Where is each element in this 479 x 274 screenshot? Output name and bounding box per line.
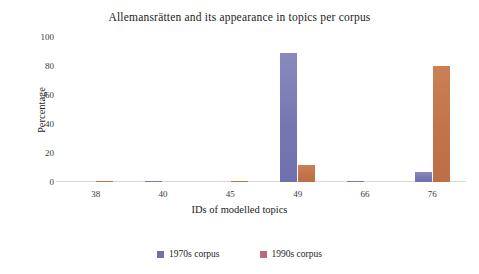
bar-1990s-49 xyxy=(298,165,315,182)
bar-group-66: 66 xyxy=(331,37,398,182)
bar-group-38: 38 xyxy=(62,37,129,182)
bar-1990s-76 xyxy=(433,66,450,182)
x-tick-66: 66 xyxy=(360,189,369,199)
bar-group-45: 45 xyxy=(197,37,264,182)
bar-groups: 38 40 45 49 66 xyxy=(62,37,466,182)
bar-chart: Allemansrätten and its appearance in top… xyxy=(0,0,479,274)
y-tick-0: 0 xyxy=(50,177,55,187)
legend-label-1970s: 1970s corpus xyxy=(169,249,219,259)
bar-1970s-49 xyxy=(280,53,297,182)
legend-label-1990s: 1990s corpus xyxy=(272,249,322,259)
bar-group-49: 49 xyxy=(264,37,331,182)
y-tick-60: 60 xyxy=(45,90,54,100)
legend-swatch-icon-1970s xyxy=(157,251,164,258)
x-tick-45: 45 xyxy=(226,189,235,199)
chart-title: Allemansrätten and its appearance in top… xyxy=(0,11,479,23)
legend-item-1990s: 1990s corpus xyxy=(260,249,322,259)
legend-item-1970s: 1970s corpus xyxy=(157,249,219,259)
legend-swatch-icon-1990s xyxy=(260,251,267,258)
bar-group-76: 76 xyxy=(399,37,466,182)
bar-1970s-66 xyxy=(347,181,364,182)
x-tick-49: 49 xyxy=(293,189,302,199)
bar-1990s-45 xyxy=(231,181,248,182)
legend: 1970s corpus 1990s corpus xyxy=(0,249,479,259)
x-tick-38: 38 xyxy=(91,189,100,199)
x-axis-title: IDs of modelled topics xyxy=(0,204,479,215)
plot-area: Percentage 0 20 40 60 80 100 38 40 45 xyxy=(62,37,466,182)
x-tick-76: 76 xyxy=(428,189,437,199)
bar-group-40: 40 xyxy=(129,37,196,182)
x-tick-40: 40 xyxy=(158,189,167,199)
bar-1970s-76 xyxy=(415,172,432,182)
y-tick-100: 100 xyxy=(41,32,55,42)
bar-1970s-40 xyxy=(145,181,162,182)
bar-1990s-38 xyxy=(96,181,113,182)
y-tick-40: 40 xyxy=(45,119,54,129)
y-tick-20: 20 xyxy=(45,148,54,158)
y-tick-80: 80 xyxy=(45,61,54,71)
